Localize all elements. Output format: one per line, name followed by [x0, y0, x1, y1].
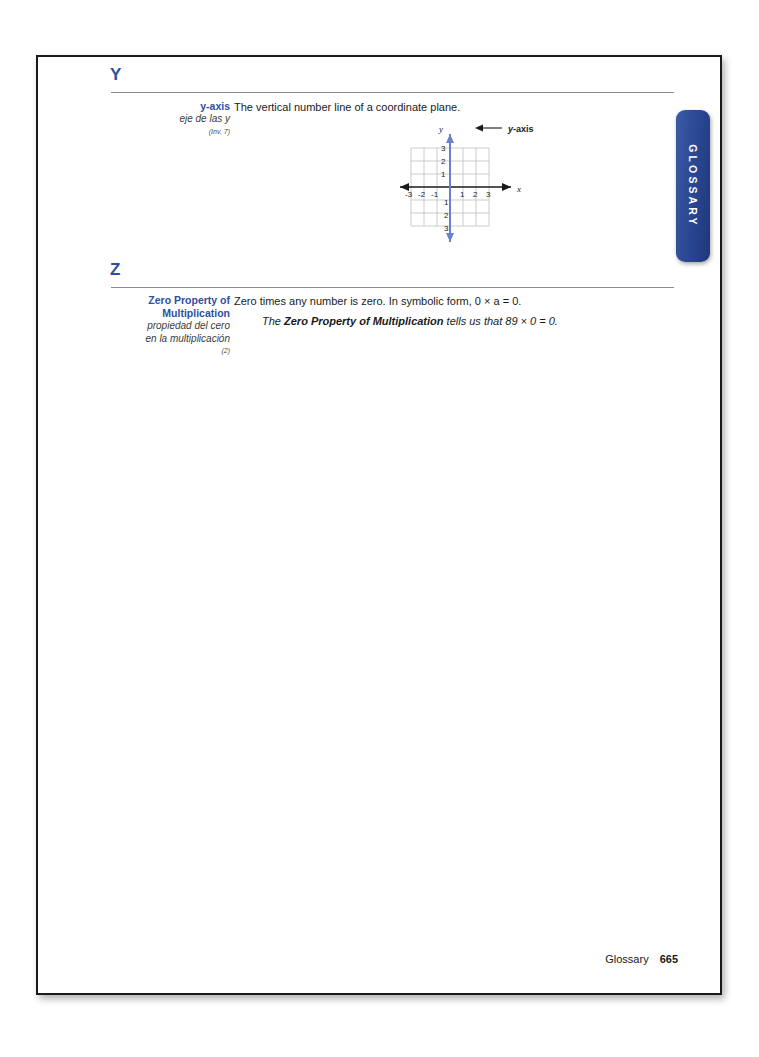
- section-letter-heading-y: Y: [110, 65, 122, 85]
- svg-text:1: 1: [444, 198, 449, 207]
- svg-text:3: 3: [486, 190, 491, 199]
- term-name-en-y-axis: y-axis: [78, 100, 230, 113]
- y-tick-labels: 3 2 1 1 2 3: [441, 144, 449, 233]
- section-rule-z: [111, 287, 674, 288]
- term-definition-zero-property: Zero times any number is zero. In symbol…: [234, 294, 680, 309]
- svg-text:2: 2: [444, 211, 449, 220]
- glossary-thumb-tab[interactable]: GLOSSARY: [676, 110, 710, 262]
- coordinate-plane-svg: x y -3 -2 -1 1 2 3 3 2 1: [378, 112, 578, 247]
- term-name-en-zero-property-line2: Multiplication: [78, 307, 230, 320]
- term-name-es-y-axis: eje de las y: [78, 113, 230, 126]
- y-axis-annotation: y-axis: [475, 124, 534, 134]
- term-name-es-zero-property-line2: en la multiplicación: [78, 333, 230, 346]
- term-left-column-y-axis: y-axis eje de las y (Inv. 7): [78, 100, 230, 137]
- page-content: Y y-axis eje de las y (Inv. 7) The verti…: [38, 57, 720, 993]
- svg-text:3: 3: [444, 224, 449, 233]
- footer-section-label: Glossary: [605, 953, 648, 965]
- svg-text:3: 3: [441, 144, 446, 153]
- section-letter-heading-z: Z: [110, 260, 121, 280]
- page-footer: Glossary665: [605, 953, 678, 965]
- term-reference-y-axis: (Inv. 7): [78, 126, 230, 137]
- svg-text:-2: -2: [418, 190, 426, 199]
- y-axis-annotation-label: y-axis: [507, 124, 534, 134]
- svg-text:-3: -3: [405, 190, 413, 199]
- glossary-thumb-tab-label: GLOSSARY: [676, 110, 710, 262]
- term-example-zero-property: The Zero Property of Multiplication tell…: [262, 314, 680, 329]
- term-example-post: tells us that 89 × 0 = 0.: [444, 315, 558, 327]
- section-rule-y: [111, 92, 674, 93]
- term-right-column-zero-property: Zero times any number is zero. In symbol…: [234, 294, 680, 329]
- svg-text:2: 2: [441, 157, 446, 166]
- svg-text:-1: -1: [431, 190, 439, 199]
- footer-page-number: 665: [660, 953, 678, 965]
- svg-text:1: 1: [460, 190, 465, 199]
- term-example-bold: Zero Property of Multiplication: [284, 315, 444, 327]
- term-name-en-zero-property-line1: Zero Property of: [78, 294, 230, 307]
- coordinate-plane-graphic: x y -3 -2 -1 1 2 3 3 2 1: [378, 112, 578, 247]
- scanned-page-sheet: Y y-axis eje de las y (Inv. 7) The verti…: [36, 55, 722, 995]
- axis-label-x: x: [516, 184, 521, 194]
- svg-text:2: 2: [473, 190, 478, 199]
- x-axis-line: [400, 183, 511, 191]
- term-name-es-zero-property-line1: propiedad del cero: [78, 320, 230, 333]
- term-left-column-zero-property: Zero Property of Multiplication propieda…: [78, 294, 230, 356]
- term-reference-zero-property: (2): [78, 345, 230, 356]
- axis-label-y: y: [438, 124, 443, 134]
- term-example-pre: The: [262, 315, 284, 327]
- svg-text:1: 1: [441, 170, 446, 179]
